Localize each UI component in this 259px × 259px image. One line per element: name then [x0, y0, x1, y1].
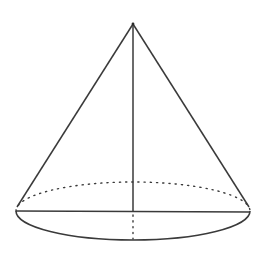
cone-figure	[0, 0, 259, 259]
base-diameter	[16, 211, 250, 212]
right-slant-edge	[133, 24, 249, 207]
apex-point	[132, 23, 135, 26]
cone-diagram	[0, 0, 259, 259]
left-slant-edge	[17, 24, 133, 207]
